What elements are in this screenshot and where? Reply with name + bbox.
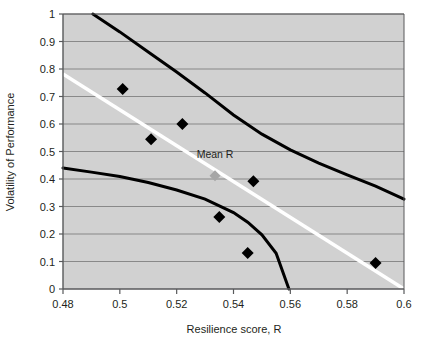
y-tick-label: 0.4 xyxy=(40,173,55,185)
y-tick-label: 0.1 xyxy=(40,256,55,268)
y-tick-label: 0.6 xyxy=(40,118,55,130)
y-tick-label: 0.9 xyxy=(40,36,55,48)
y-tick-label: 0.8 xyxy=(40,63,55,75)
x-tick-label: 0.48 xyxy=(52,298,73,310)
y-tick-label: 0.5 xyxy=(40,146,55,158)
x-axis-title: Resilience score, R xyxy=(187,323,282,335)
chart-figure: Mean R 0.480.50.520.540.560.580.6 00.10.… xyxy=(0,0,433,340)
y-tick-label: 0 xyxy=(49,283,55,295)
y-tick-label: 0.3 xyxy=(40,201,55,213)
x-tick-label: 0.6 xyxy=(396,298,411,310)
chart-annotations: Mean R xyxy=(197,148,234,160)
y-tick-label: 0.2 xyxy=(40,228,55,240)
y-tick-label: 0.7 xyxy=(40,91,55,103)
x-tick-label: 0.5 xyxy=(112,298,127,310)
x-tick-label: 0.56 xyxy=(280,298,301,310)
x-tick-label: 0.52 xyxy=(166,298,187,310)
y-axis-title: Volatility of Performance xyxy=(4,93,16,212)
mean-r-annotation-label: Mean R xyxy=(197,148,234,160)
scatter-chart: Mean R 0.480.50.520.540.560.580.6 00.10.… xyxy=(0,0,433,340)
x-tick-label: 0.54 xyxy=(223,298,244,310)
x-tick-label: 0.58 xyxy=(336,298,357,310)
y-tick-label: 1 xyxy=(49,8,55,20)
